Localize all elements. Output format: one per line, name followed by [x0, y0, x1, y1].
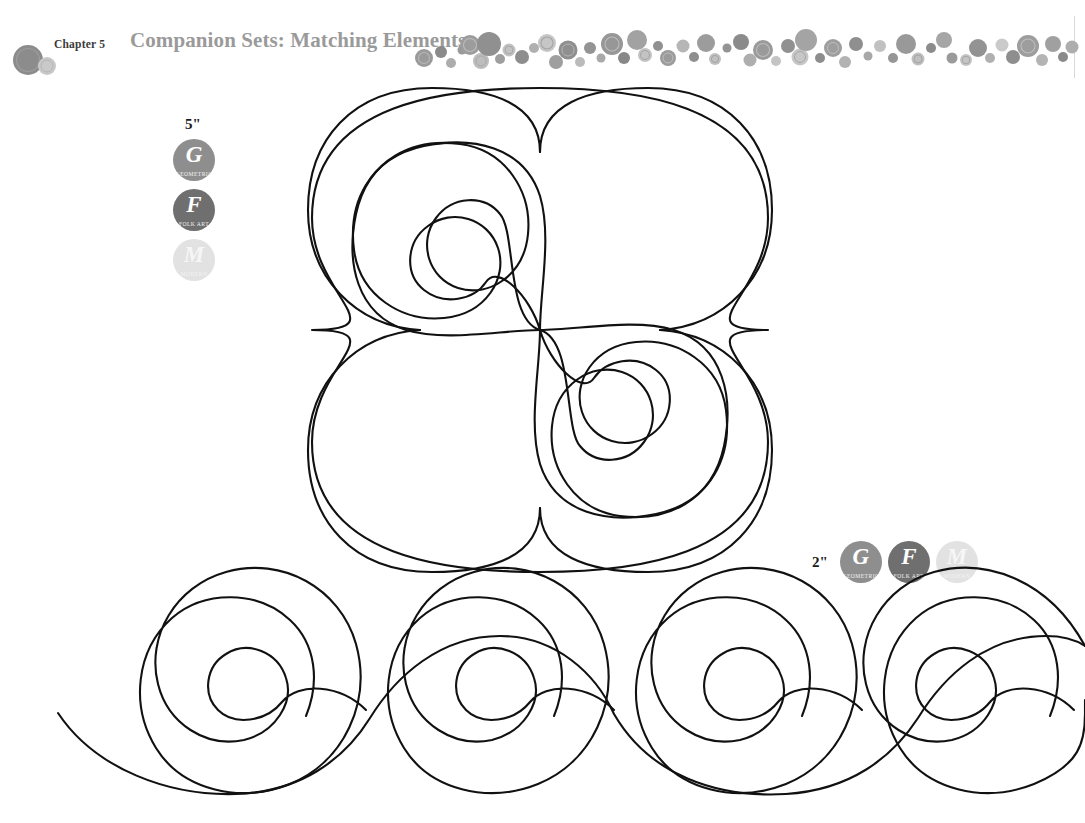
badge-geometric[interactable]: G Geometric: [840, 541, 882, 583]
badge-caption: Geometric: [173, 171, 215, 177]
border-motif-running-spirals: [58, 568, 1085, 795]
quilting-pattern-artwork: [0, 0, 1085, 823]
chapter-label-text: Chapter 5: [54, 38, 105, 50]
header-rule-divider: [1074, 16, 1075, 78]
badge-folk-art[interactable]: F Folk Art: [888, 541, 930, 583]
page-title: Companion Sets: Matching Elements: [130, 28, 466, 53]
badge-letter: F: [173, 192, 215, 218]
border-spiral-3: [636, 568, 862, 793]
block-inner-scroll-top-right: [540, 325, 727, 517]
badge-letter: G: [840, 544, 882, 570]
badge-letter: M: [173, 242, 215, 268]
block-outer-lobe-top-left: [308, 88, 540, 330]
block-outer-lobe-top-right: [540, 88, 772, 330]
block-outer-lobe-bottom-right: [540, 330, 772, 572]
border-spiral-2: [388, 568, 614, 793]
badge-modern[interactable]: M Modern: [936, 541, 978, 583]
block-inner-scroll-bottom-right: [535, 330, 727, 517]
chapter-label: Chapter 5: [54, 35, 105, 52]
badge-letter: M: [936, 544, 978, 570]
badge-modern[interactable]: M Modern: [173, 239, 215, 281]
badge-caption: Modern: [936, 573, 978, 579]
badge-folk-art[interactable]: F Folk Art: [173, 189, 215, 231]
size-label: 2": [812, 554, 828, 571]
block-inner-scroll-bottom-left: [353, 143, 540, 335]
block-outer-outline: [312, 88, 768, 572]
block-outer-lobe-bottom-left: [308, 330, 540, 572]
badge-group-border-sizes: 2" G Geometric F Folk Art M Modern: [812, 541, 984, 583]
page-header: Chapter 5 Companion Sets: Matching Eleme…: [0, 0, 1085, 88]
border-baseline-wave: [58, 636, 1085, 794]
badge-letter: F: [888, 544, 930, 570]
badge-caption: Folk Art: [173, 221, 215, 227]
badge-caption: Geometric: [840, 573, 882, 579]
border-spiral-4: [863, 568, 1085, 793]
badge-letter: G: [173, 142, 215, 168]
block-motif-four-lobe-spiral: [308, 88, 772, 572]
size-label: 5": [185, 116, 215, 133]
badge-group-block-sizes: 5" G Geometric F Folk Art M Modern: [173, 116, 215, 289]
badge-geometric[interactable]: G Geometric: [173, 139, 215, 181]
badge-caption: Modern: [173, 271, 215, 277]
block-inner-scroll-top-left: [353, 143, 545, 330]
badge-caption: Folk Art: [888, 573, 930, 579]
border-spiral-1: [140, 568, 366, 793]
